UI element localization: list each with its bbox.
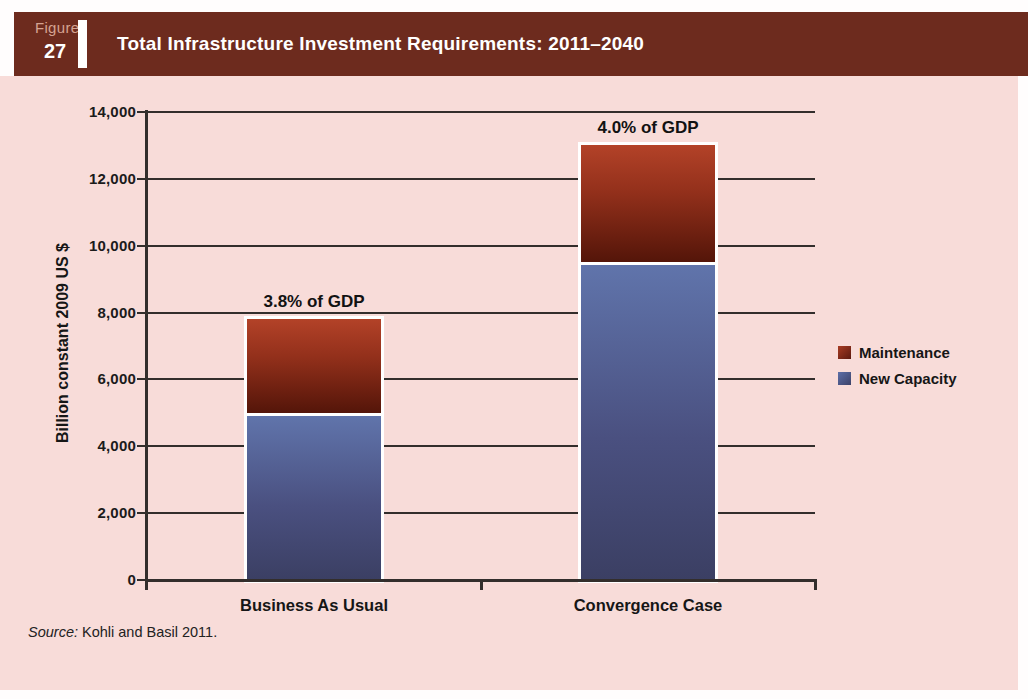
bar-segment-new-capacity xyxy=(247,413,381,580)
gdp-annotation: 4.0% of GDP xyxy=(558,118,738,138)
legend-label-maintenance: Maintenance xyxy=(859,344,950,361)
source-note: Source: Kohli and Basil 2011. xyxy=(28,624,217,640)
x-axis-end-tick xyxy=(814,580,817,590)
legend-item-maintenance: Maintenance xyxy=(838,344,957,361)
new-capacity-swatch-icon xyxy=(838,372,851,385)
y-tick-label: 12,000 xyxy=(36,169,136,189)
y-tick-label: 0 xyxy=(36,570,136,590)
figure-header-bar: Figure 27 Total Infrastructure Investmen… xyxy=(14,12,1028,76)
x-axis-mid-tick xyxy=(480,580,483,590)
bar-segment-maintenance xyxy=(581,145,715,262)
legend-label-new-capacity: New Capacity xyxy=(859,370,957,387)
x-category-label: Business As Usual xyxy=(164,596,464,615)
y-tick-label: 14,000 xyxy=(36,102,136,122)
scanned-figure-page: Figure 27 Total Infrastructure Investmen… xyxy=(0,0,1028,699)
gdp-annotation: 3.8% of GDP xyxy=(224,292,404,312)
y-axis-line xyxy=(145,110,148,582)
y-tick-label: 6,000 xyxy=(36,369,136,389)
legend-item-new-capacity: New Capacity xyxy=(838,370,957,387)
gridline xyxy=(147,111,815,113)
chart-legend: Maintenance New Capacity xyxy=(838,344,957,396)
x-category-label: Convergence Case xyxy=(498,596,798,615)
bar-convergence-case xyxy=(581,145,715,580)
y-tick-label: 8,000 xyxy=(36,303,136,323)
y-tick-label: 4,000 xyxy=(36,436,136,456)
source-text: Kohli and Basil 2011. xyxy=(78,624,217,640)
source-prefix: Source: xyxy=(28,624,78,640)
figure-kicker-label: Figure xyxy=(35,19,79,36)
bar-segment-new-capacity xyxy=(581,262,715,580)
y-tick-label: 2,000 xyxy=(36,503,136,523)
bar-segment-maintenance xyxy=(247,319,381,413)
figure-number: 27 xyxy=(44,40,66,63)
x-axis-end-tick xyxy=(145,580,148,590)
y-tick-label: 10,000 xyxy=(36,236,136,256)
bar-business-as-usual xyxy=(247,319,381,580)
maintenance-swatch-icon xyxy=(838,346,851,359)
header-divider xyxy=(78,20,87,68)
figure-title: Total Infrastructure Investment Requirem… xyxy=(117,12,644,76)
